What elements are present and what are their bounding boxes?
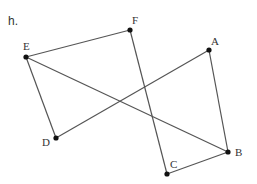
polygon-diagram bbox=[0, 0, 257, 184]
point-label-C: C bbox=[170, 159, 177, 170]
segment-FC bbox=[130, 30, 167, 174]
point-A bbox=[206, 47, 211, 52]
point-C bbox=[164, 171, 169, 176]
point-E bbox=[23, 54, 28, 59]
segment-EF bbox=[26, 30, 130, 57]
point-label-D: D bbox=[42, 137, 50, 148]
point-label-B: B bbox=[235, 147, 242, 158]
point-F bbox=[127, 27, 132, 32]
point-label-A: A bbox=[211, 36, 219, 47]
point-B bbox=[225, 149, 230, 154]
segment-BA bbox=[209, 50, 228, 152]
segment-AD bbox=[56, 50, 209, 138]
point-label-E: E bbox=[23, 41, 30, 52]
point-label-F: F bbox=[132, 15, 138, 26]
point-D bbox=[53, 135, 58, 140]
